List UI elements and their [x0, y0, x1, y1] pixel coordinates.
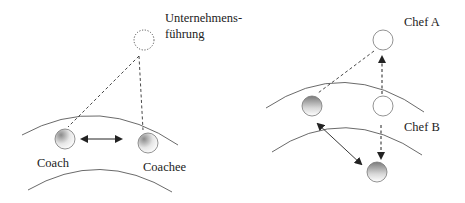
coachee-node	[138, 133, 158, 153]
peer-node	[302, 96, 322, 116]
employee-node	[367, 162, 387, 182]
management-label-line2: führung	[165, 27, 205, 41]
diagram-canvas	[0, 0, 465, 203]
dashed-link-coachee	[139, 56, 143, 130]
coach-label: Coach	[37, 156, 69, 170]
right-diagram	[266, 30, 424, 182]
chef-a-level-arc	[266, 82, 424, 112]
coachee-label: Coachee	[143, 160, 186, 174]
chef-a-label: Chef A	[404, 15, 440, 29]
dashed-link-chef-a-peer	[318, 51, 374, 93]
coach-node	[55, 129, 75, 149]
chef-b-node	[373, 96, 393, 116]
chef-a-node	[373, 30, 393, 50]
peer-employee-arrow	[318, 124, 361, 164]
chef-b-label: Chef B	[404, 120, 440, 134]
management-label-line1: Unternehmens-	[165, 11, 242, 25]
management-node	[134, 30, 154, 50]
